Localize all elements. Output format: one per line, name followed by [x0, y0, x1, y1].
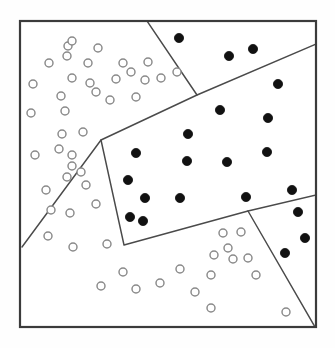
data-point-class-open-14	[157, 74, 165, 82]
data-point-class-open-16	[57, 92, 65, 100]
data-point-class-filled-5	[263, 113, 272, 122]
data-point-class-filled-8	[182, 156, 191, 165]
data-point-class-open-7	[144, 58, 152, 66]
data-point-class-open-21	[61, 107, 69, 115]
data-point-class-open-24	[55, 145, 63, 153]
data-point-class-open-47	[224, 244, 232, 252]
data-point-class-open-32	[47, 206, 55, 214]
data-point-class-open-10	[86, 79, 94, 87]
data-point-class-open-18	[106, 96, 114, 104]
data-point-class-open-26	[68, 151, 76, 159]
data-point-class-open-2	[63, 52, 71, 60]
data-point-class-open-6	[119, 59, 127, 67]
data-point-class-open-48	[229, 255, 237, 263]
data-point-class-filled-9	[222, 157, 231, 166]
data-point-class-open-51	[252, 271, 260, 279]
data-point-class-open-11	[112, 75, 120, 83]
data-point-class-open-13	[141, 76, 149, 84]
data-point-class-open-3	[94, 44, 102, 52]
data-point-class-filled-11	[123, 175, 132, 184]
data-point-class-open-42	[176, 265, 184, 273]
data-point-class-open-27	[68, 162, 76, 170]
data-point-class-open-9	[68, 74, 76, 82]
data-point-class-open-5	[84, 59, 92, 67]
data-point-class-open-52	[207, 304, 215, 312]
data-point-class-open-33	[66, 209, 74, 217]
data-point-class-filled-6	[183, 129, 192, 138]
data-point-class-filled-10	[262, 147, 271, 156]
data-point-class-open-15	[173, 68, 181, 76]
data-point-class-filled-12	[140, 193, 149, 202]
data-point-class-filled-0	[174, 33, 183, 42]
data-point-class-filled-2	[248, 44, 257, 53]
data-point-class-open-22	[58, 130, 66, 138]
data-point-class-filled-3	[273, 79, 282, 88]
data-point-class-filled-19	[300, 233, 309, 242]
data-point-class-open-35	[44, 232, 52, 240]
data-point-class-open-17	[92, 88, 100, 96]
data-point-class-filled-14	[241, 192, 250, 201]
data-point-class-open-46	[219, 229, 227, 237]
data-point-class-filled-7	[131, 148, 140, 157]
data-point-class-open-19	[132, 93, 140, 101]
data-point-class-open-20	[27, 109, 35, 117]
scatter-figure	[0, 0, 335, 348]
data-point-class-filled-17	[138, 216, 147, 225]
data-point-class-filled-13	[175, 193, 184, 202]
data-point-class-open-49	[237, 228, 245, 236]
data-point-class-filled-15	[287, 185, 296, 194]
data-point-class-open-29	[77, 168, 85, 176]
data-point-class-open-43	[191, 288, 199, 296]
data-point-class-open-30	[42, 186, 50, 194]
data-point-class-open-36	[69, 243, 77, 251]
data-point-class-open-28	[63, 173, 71, 181]
data-point-class-open-12	[127, 68, 135, 76]
data-point-class-open-53	[282, 308, 290, 316]
data-point-class-open-44	[207, 271, 215, 279]
data-point-class-open-40	[132, 285, 140, 293]
data-point-class-filled-4	[215, 105, 224, 114]
data-point-class-filled-18	[293, 207, 302, 216]
data-point-class-open-23	[79, 128, 87, 136]
data-point-class-open-38	[119, 268, 127, 276]
data-point-class-open-8	[29, 80, 37, 88]
data-point-class-filled-1	[224, 51, 233, 60]
data-point-class-open-41	[156, 279, 164, 287]
data-point-class-open-45	[210, 251, 218, 259]
scatter-plot-canvas	[0, 0, 335, 348]
data-point-class-open-34	[92, 200, 100, 208]
data-point-class-open-37	[103, 240, 111, 248]
data-point-class-open-50	[244, 254, 252, 262]
data-point-class-open-31	[82, 181, 90, 189]
data-point-class-open-39	[97, 282, 105, 290]
data-point-class-open-1	[68, 37, 76, 45]
data-point-class-filled-16	[125, 212, 134, 221]
data-point-class-open-25	[31, 151, 39, 159]
data-point-class-filled-20	[280, 248, 289, 257]
data-point-class-open-4	[45, 59, 53, 67]
